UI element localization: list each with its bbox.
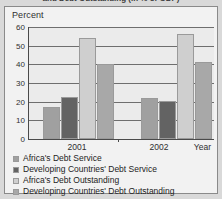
legend-item-label: Developing Countries' Debt Service	[23, 164, 157, 175]
bar-2001-developing-debt-service	[61, 97, 78, 139]
legend-swatch-icon	[13, 178, 19, 184]
legend-item-label: Africa's Debt Outstanding	[23, 175, 119, 186]
chart-title: and Debt Outstanding (in % of GDP)	[43, 0, 180, 3]
chart-figure: and Debt Outstanding (in % of GDP) Perce…	[0, 0, 222, 199]
legend-item-label: Africa's Debt Service	[23, 153, 102, 164]
y-tick-40: 40	[9, 60, 25, 69]
y-axis-label: Percent	[12, 10, 44, 20]
bar-2001-africa-debt-outstanding	[79, 38, 96, 139]
chart-card: Percent 6050403020100 Year Africa's Debt…	[4, 6, 218, 194]
bar-2001-developing-debt-outstanding	[97, 64, 114, 139]
legend-item-0[interactable]: Africa's Debt Service	[13, 153, 213, 164]
bar-2002-developing-debt-service	[141, 98, 158, 139]
y-tick-20: 20	[9, 97, 25, 106]
x-axis-title: Year	[194, 142, 211, 152]
x-axis-tickmark	[118, 139, 119, 142]
legend-item-2[interactable]: Africa's Debt Outstanding	[13, 175, 213, 186]
y-tick-0: 0	[9, 135, 25, 144]
y-tick-10: 10	[9, 116, 25, 125]
legend-item-3[interactable]: Developing Countries' Debt Outstanding	[13, 186, 213, 197]
plot-area	[28, 27, 214, 140]
bar-2002-developing-debt-outstanding	[177, 34, 194, 139]
bar-2001-africa-debt-service	[43, 107, 60, 139]
x-tick-2001: 2001	[61, 142, 93, 152]
chart-legend: Africa's Debt ServiceDeveloping Countrie…	[13, 153, 213, 197]
legend-swatch-icon	[13, 189, 19, 195]
legend-swatch-icon	[13, 167, 19, 173]
legend-swatch-icon	[13, 156, 19, 162]
legend-item-label: Developing Countries' Debt Outstanding	[23, 186, 174, 197]
bar-2002-year-debt-outstanding	[195, 62, 212, 139]
y-tick-30: 30	[9, 79, 25, 88]
legend-item-1[interactable]: Developing Countries' Debt Service	[13, 164, 213, 175]
y-axis-tick-labels: 6050403020100	[8, 27, 25, 140]
bar-series-container	[29, 27, 214, 139]
y-tick-60: 60	[9, 23, 25, 32]
y-tick-50: 50	[9, 41, 25, 50]
bar-2002-africa-debt-outstanding	[159, 101, 176, 139]
x-tick-2002: 2002	[143, 142, 175, 152]
